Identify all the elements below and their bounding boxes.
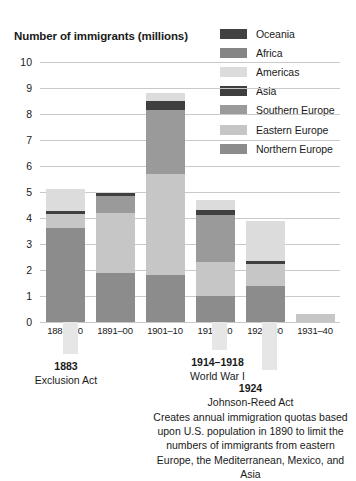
y-axis-tick-label: 4 (26, 212, 32, 224)
y-axis-tick-label: 2 (26, 264, 32, 276)
y-axis: 012345678910 (0, 62, 40, 322)
x-axis-tick-label: 1931–40 (290, 325, 340, 336)
bar-1901-10 (146, 62, 185, 322)
bar-segment (196, 262, 235, 296)
bar-1931-40 (296, 62, 335, 322)
y-axis-tick-label: 5 (26, 186, 32, 198)
bar-segment (96, 193, 135, 196)
y-axis-tick-label: 6 (26, 160, 32, 172)
bar-1881-90 (46, 62, 85, 322)
bar-1891-00 (96, 62, 135, 322)
bar-segment (96, 213, 135, 273)
bar-segment (196, 296, 235, 322)
legend-swatch-icon (220, 48, 247, 58)
legend-item-label: Oceania (256, 28, 295, 40)
annotation-year: 1924 (148, 382, 353, 394)
annotation-year: 1914–1918 (155, 356, 280, 368)
y-axis-tick-label: 7 (26, 134, 32, 146)
legend-item: Oceania (220, 24, 356, 43)
bar-segment (96, 273, 135, 322)
x-axis-tick-label: 1891–00 (90, 325, 140, 336)
bar-1921-30 (246, 62, 285, 322)
bar-1911-20 (196, 62, 235, 322)
bar-segment (246, 264, 285, 286)
page-title: Number of immigrants (millions) (14, 30, 188, 42)
annotation-name: Exclusion Act (6, 374, 126, 386)
bar-segment (196, 210, 235, 215)
bar-segment (246, 221, 285, 261)
y-axis-tick-label: 3 (26, 238, 32, 250)
bar-segment (246, 261, 285, 264)
bar-segment (146, 275, 185, 322)
annotation-world-war-i: 1914–1918 World War I (155, 356, 280, 382)
bar-segment (96, 196, 135, 213)
bar-segment (46, 189, 85, 211)
y-axis-tick-label: 9 (26, 82, 32, 94)
legend-item-label: Africa (256, 47, 283, 59)
annotation-exclusion-act: 1883 Exclusion Act (6, 360, 126, 386)
bar-segment (296, 314, 335, 322)
y-axis-tick-label: 10 (20, 56, 32, 68)
annotation-body: Creates annual immigration quotas based … (148, 410, 353, 481)
bar-segment (196, 215, 235, 262)
bar-segment (96, 192, 135, 193)
bar-segment (146, 110, 185, 174)
y-axis-tick-label: 1 (26, 290, 32, 302)
bar-segment (196, 200, 235, 210)
annotation-name: World War I (155, 370, 280, 382)
annotation-stem-1914 (212, 322, 227, 350)
y-axis-tick-label: 0 (26, 316, 32, 328)
bar-segment (46, 211, 85, 214)
bar-segment (146, 101, 185, 110)
annotation-stem-1883 (63, 322, 78, 354)
x-axis: 1881–901891–001901–101911–201921–301931–… (40, 325, 340, 339)
annotation-johnson-reed-act: 1924 Johnson-Reed Act Creates annual imm… (148, 382, 353, 481)
bar-segment (46, 228, 85, 322)
bar-segment (146, 93, 185, 101)
y-axis-tick-label: 8 (26, 108, 32, 120)
bar-segment (146, 174, 185, 275)
bar-segment (246, 286, 285, 322)
legend-swatch-icon (220, 29, 247, 39)
annotation-year: 1883 (6, 360, 126, 372)
legend-item: Africa (220, 43, 356, 62)
bar-segment (46, 214, 85, 228)
bars-container (40, 62, 340, 322)
x-axis-tick-label: 1901–10 (140, 325, 190, 336)
gridline (40, 322, 340, 323)
annotation-name: Johnson-Reed Act (148, 396, 353, 408)
